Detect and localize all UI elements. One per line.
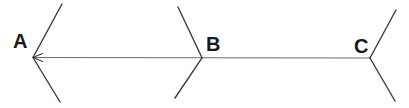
point-label-a: A [13,30,27,52]
point-label-b: B [206,33,220,55]
muller-lyer-figure: ABC [0,0,409,108]
fin-a-lower [33,58,60,103]
fin-a-upper [33,4,62,58]
fin-b-lower [175,58,202,98]
point-label-c: C [354,35,368,57]
figure-canvas: ABC [0,0,409,108]
fin-c-upper [370,10,396,58]
fin-b-upper [178,7,202,58]
fin-c-lower [370,58,395,101]
